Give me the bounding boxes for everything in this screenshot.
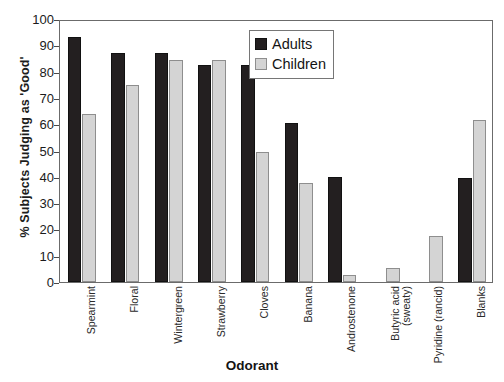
black-square-swatch	[255, 38, 267, 50]
bar-group	[458, 21, 486, 282]
y-axis-tick-labels: 1009080706050403020100	[22, 0, 54, 300]
bar-adults-cloves	[241, 65, 255, 282]
y-axis-tick-label: 90	[24, 41, 54, 51]
gray-square-swatch	[255, 58, 267, 70]
y-axis-tick-label: 50	[24, 147, 54, 157]
bar-adults-strawberry	[198, 65, 212, 282]
bar-group	[372, 21, 400, 282]
bar-group	[111, 21, 139, 282]
y-axis-tick-label: 20	[24, 225, 54, 235]
legend-item: Children	[255, 54, 326, 74]
legend-item: Adults	[255, 34, 326, 54]
bar-adults-spearmint	[68, 37, 82, 282]
y-axis-tick-label: 100	[24, 15, 54, 25]
y-axis-tick-label: 60	[24, 120, 54, 130]
y-axis-tick-label: 10	[24, 252, 54, 262]
y-axis-tick-label: 40	[24, 173, 54, 183]
bar-adults-wintergreen	[155, 53, 169, 282]
bar-children-strawberry	[212, 60, 226, 282]
y-axis-tick-label: 80	[24, 68, 54, 78]
bar-children-blanks	[473, 120, 487, 282]
bar-children-wintergreen	[169, 60, 183, 282]
bar-group	[155, 21, 183, 282]
y-axis-tick-mark	[54, 283, 59, 284]
bar-children-spearmint	[82, 114, 96, 282]
chart-legend: AdultsChildren	[249, 30, 334, 79]
legend-item-label: Children	[272, 57, 326, 72]
bar-adults-banana	[285, 123, 299, 282]
bar-group	[415, 21, 443, 282]
bar-adults-androstenone	[328, 177, 342, 282]
bar-group	[68, 21, 96, 282]
chart-figure: % Subjects Judging as 'Good' 10090807060…	[0, 0, 504, 382]
bar-children-cloves	[256, 152, 270, 282]
bar-adults-floral	[111, 53, 125, 282]
bar-group	[198, 21, 226, 282]
bar-children-androstenone	[343, 275, 357, 282]
bar-adults-blanks	[458, 178, 472, 282]
y-axis-tick-label: 70	[24, 94, 54, 104]
x-axis-title: Odorant	[0, 358, 504, 373]
legend-item-label: Adults	[272, 37, 312, 52]
bar-children-pyridine-rancid	[429, 236, 443, 282]
bar-children-banana	[299, 183, 313, 282]
bar-children-butyric-acid-sweaty	[386, 268, 400, 282]
y-axis-tick-label: 0	[24, 278, 54, 288]
bar-children-floral	[126, 85, 140, 282]
y-axis-tick-label: 30	[24, 199, 54, 209]
